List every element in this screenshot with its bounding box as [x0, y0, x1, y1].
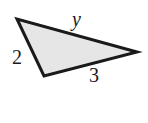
triangle-diagram: y 2 3 — [0, 0, 148, 123]
triangle-svg: y 2 3 — [0, 0, 148, 123]
side-label-3: 3 — [89, 64, 99, 86]
side-label-y: y — [70, 8, 81, 31]
side-label-2: 2 — [12, 46, 22, 68]
